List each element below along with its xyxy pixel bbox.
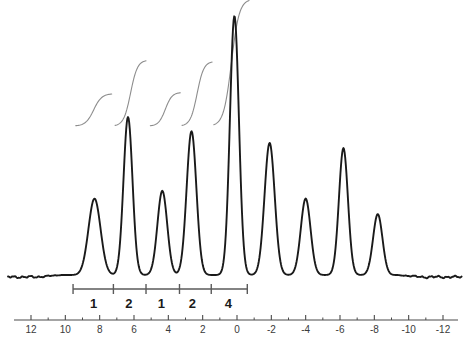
axis-tick-label: 12	[25, 325, 36, 335]
axis-tick-label: 8	[97, 325, 103, 335]
axis-tick-label: 2	[200, 325, 206, 335]
axis-tick-label: -12	[436, 325, 450, 335]
spectrum-canvas	[0, 0, 469, 344]
axis-tick-label: 4	[166, 325, 172, 335]
integration-value: 4	[225, 297, 232, 310]
axis-tick-label: 6	[131, 325, 137, 335]
spectrum-trace-line	[8, 16, 462, 278]
integral-curve-2	[115, 61, 146, 126]
axis-tick-label: 0	[234, 325, 240, 335]
axis-tick-label: -10	[401, 325, 415, 335]
integral-curve-3	[150, 93, 180, 126]
integration-ruler	[73, 284, 247, 294]
integral-curves-group	[76, 1, 249, 126]
integral-curve-4	[182, 62, 212, 125]
axis-tick-label: 10	[60, 325, 71, 335]
axis-tick-label: -6	[336, 325, 345, 335]
integral-curve-1	[76, 94, 112, 126]
axis-tick-label: -2	[267, 325, 276, 335]
integration-value: 1	[158, 297, 165, 310]
integration-value: 2	[189, 297, 196, 310]
chemical-shift-axis	[14, 315, 458, 320]
nmr-spectrum-figure: 12124 121086420-2-4-6-8-10-12	[0, 0, 469, 344]
integration-value: 2	[125, 297, 132, 310]
axis-tick-label: -4	[301, 325, 310, 335]
integration-value: 1	[90, 297, 97, 310]
axis-tick-label: -8	[370, 325, 379, 335]
